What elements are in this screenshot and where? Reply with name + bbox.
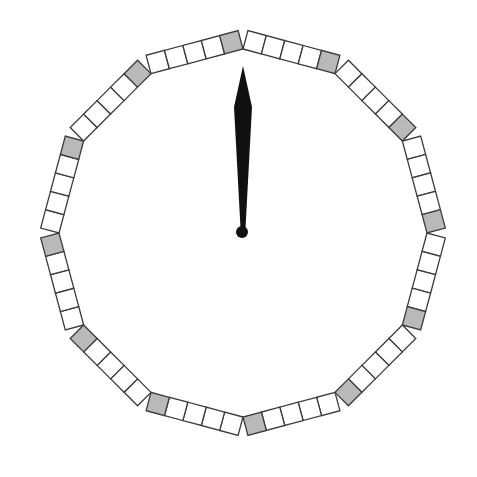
dial-segment <box>402 136 445 233</box>
dial-segment <box>70 60 151 141</box>
marked-cell <box>146 392 169 415</box>
dial-segment <box>146 31 243 74</box>
clock-hand <box>234 66 252 238</box>
marked-cell <box>402 307 425 330</box>
marked-cell <box>317 50 340 73</box>
marked-cell <box>422 210 445 233</box>
dial-segment <box>335 325 416 406</box>
marked-cell <box>243 412 266 435</box>
dial-segment <box>243 31 340 74</box>
marked-cell <box>60 136 83 159</box>
dial-segment <box>41 233 84 330</box>
dial-segment <box>146 392 243 435</box>
dial-segment <box>335 60 416 141</box>
dial-segment <box>41 136 84 233</box>
hand-pivot <box>236 226 248 238</box>
dial-segment <box>402 233 445 330</box>
marked-cell <box>220 31 243 54</box>
clock-dial-diagram <box>0 0 477 477</box>
dial-segment <box>243 392 340 435</box>
marked-cell <box>41 233 64 256</box>
hand-blade <box>234 66 252 228</box>
dial-segment <box>70 325 151 406</box>
